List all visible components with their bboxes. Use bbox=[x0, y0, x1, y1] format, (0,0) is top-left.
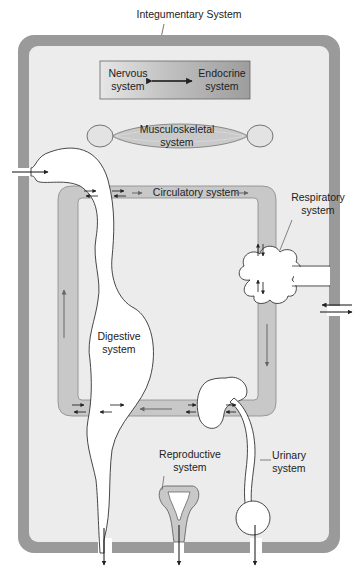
reproductive-label-2: system bbox=[173, 461, 207, 473]
urinary-label-2: system bbox=[272, 462, 306, 474]
nervous-label-1: Nervous bbox=[108, 67, 147, 79]
digestive-label-2: system bbox=[102, 343, 136, 355]
digestive-label-1: Digestive bbox=[97, 330, 140, 342]
endocrine-label-2: system bbox=[205, 80, 239, 92]
musculoskeletal-label-1: Musculoskeletal bbox=[140, 123, 215, 135]
respiratory-label-1: Respiratory bbox=[291, 191, 345, 203]
organ-systems-diagram: Integumentary System Nervous system Endo… bbox=[0, 0, 364, 573]
integumentary-label: Integumentary System bbox=[136, 8, 241, 20]
reproductive-label-1: Reproductive bbox=[159, 448, 221, 460]
musculoskeletal-label-2: system bbox=[160, 136, 194, 148]
nervous-label-2: system bbox=[111, 80, 145, 92]
circulatory-system: Circulatory system bbox=[58, 186, 276, 416]
endocrine-label-1: Endocrine bbox=[198, 67, 245, 79]
respiratory-label-2: system bbox=[301, 204, 335, 216]
circulatory-label: Circulatory system bbox=[153, 186, 240, 198]
urinary-label-1: Urinary bbox=[272, 449, 307, 461]
nervous-endocrine-box: Nervous system Endocrine system bbox=[100, 61, 250, 99]
